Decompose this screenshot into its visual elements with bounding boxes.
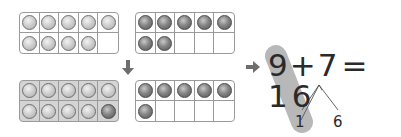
light-counter-icon xyxy=(22,83,37,98)
light-counter-icon xyxy=(41,83,56,98)
dark-counter-icon xyxy=(138,83,153,98)
light-counter-icon xyxy=(81,36,96,51)
light-counter-icon xyxy=(101,83,116,98)
dark-counter-icon xyxy=(138,104,153,119)
frame-cell xyxy=(195,81,215,101)
frame-cell xyxy=(40,81,60,101)
addend-b: 7 xyxy=(318,50,339,81)
light-counter-icon xyxy=(41,104,56,119)
frame-cell xyxy=(214,33,234,53)
frame-cell xyxy=(136,33,156,53)
equation: 9+7=16 xyxy=(268,50,401,112)
frame-cell xyxy=(20,33,40,53)
dark-counter-icon xyxy=(217,83,232,98)
arrow-down-icon xyxy=(122,60,134,76)
dark-counter-icon xyxy=(197,15,212,30)
light-counter-icon xyxy=(61,104,76,119)
frame-cell xyxy=(59,81,79,101)
frame-cell xyxy=(175,13,195,33)
light-counter-icon xyxy=(22,15,37,30)
split-part-left: 1 xyxy=(295,113,305,131)
arrow-right-icon xyxy=(246,61,260,73)
frame-cell xyxy=(98,13,118,33)
frame-cell xyxy=(175,33,195,53)
light-counter-icon xyxy=(81,104,96,119)
frame-cell xyxy=(195,101,215,121)
ten-frame-top-right xyxy=(135,12,235,54)
frame-cell xyxy=(136,101,156,121)
frame-cell xyxy=(156,33,176,53)
light-counter-icon xyxy=(22,104,37,119)
frame-cell xyxy=(195,33,215,53)
dark-counter-icon xyxy=(177,15,192,30)
dark-counter-icon xyxy=(157,15,172,30)
plus-sign: + xyxy=(290,50,317,81)
frame-cell xyxy=(156,13,176,33)
light-counter-icon xyxy=(22,36,37,51)
addend-a: 9 xyxy=(268,50,289,81)
light-counter-icon xyxy=(81,83,96,98)
frame-cell xyxy=(98,33,118,53)
dark-counter-icon xyxy=(197,83,212,98)
ten-frame-bottom-left xyxy=(19,80,119,122)
frame-cell xyxy=(20,13,40,33)
ten-frame-bottom-right xyxy=(135,80,235,122)
frame-cell xyxy=(79,101,99,121)
dark-counter-icon xyxy=(138,15,153,30)
dark-counter-icon xyxy=(157,36,172,51)
frame-cell xyxy=(98,81,118,101)
frame-cell xyxy=(136,13,156,33)
frame-cell xyxy=(156,81,176,101)
frame-cell xyxy=(175,101,195,121)
frame-cell xyxy=(59,101,79,121)
frame-cell xyxy=(156,101,176,121)
light-counter-icon xyxy=(81,15,96,30)
frame-cell xyxy=(214,81,234,101)
dark-counter-icon xyxy=(177,83,192,98)
frame-cell xyxy=(79,13,99,33)
frame-cell xyxy=(59,33,79,53)
frame-cell xyxy=(20,81,40,101)
dark-counter-icon xyxy=(157,83,172,98)
dark-counter-icon xyxy=(138,36,153,51)
light-counter-icon xyxy=(61,36,76,51)
light-counter-icon xyxy=(61,83,76,98)
light-counter-icon xyxy=(101,15,116,30)
ten-frame-top-left xyxy=(19,12,119,54)
frame-cell xyxy=(195,13,215,33)
dark-counter-icon xyxy=(217,15,232,30)
light-counter-icon xyxy=(61,15,76,30)
frame-cell xyxy=(136,81,156,101)
sum-result: 16 xyxy=(268,81,315,112)
split-part-right: 6 xyxy=(333,113,343,131)
frame-cell xyxy=(79,33,99,53)
frame-cell xyxy=(40,101,60,121)
frame-cell xyxy=(20,101,40,121)
equals-sign: = xyxy=(341,50,368,81)
frame-cell xyxy=(214,101,234,121)
frame-cell xyxy=(79,81,99,101)
frame-cell xyxy=(175,81,195,101)
light-counter-icon xyxy=(41,15,56,30)
frame-cell xyxy=(40,13,60,33)
frame-cell xyxy=(98,101,118,121)
dark-counter-icon xyxy=(101,104,116,119)
frame-cell xyxy=(214,13,234,33)
frame-cell xyxy=(59,13,79,33)
light-counter-icon xyxy=(41,36,56,51)
frame-cell xyxy=(40,33,60,53)
